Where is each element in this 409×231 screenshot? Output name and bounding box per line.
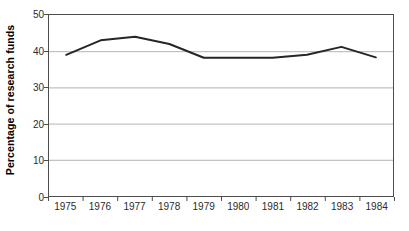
x-axis-tick-labels: 1975197619771978197919801981198219831984	[48, 201, 394, 221]
series-polyline	[66, 37, 376, 58]
y-axis-title-text: Percentage of research funds	[4, 25, 16, 175]
y-axis-tick-mark	[44, 51, 48, 52]
y-axis-tick-mark	[44, 87, 48, 88]
x-tick-label: 1975	[54, 201, 76, 212]
y-axis-tick-mark	[44, 160, 48, 161]
x-tick-label: 1980	[227, 201, 249, 212]
y-axis-title: Percentage of research funds	[0, 0, 20, 200]
y-axis-tick-mark	[44, 124, 48, 125]
plot-area	[48, 14, 394, 197]
x-tick-label: 1982	[296, 201, 318, 212]
y-axis-tick-labels: 01020304050	[20, 0, 44, 231]
data-series-line	[49, 15, 393, 196]
x-tick-label: 1976	[89, 201, 111, 212]
x-tick-label: 1978	[158, 201, 180, 212]
line-chart-figure: Percentage of research funds 01020304050…	[0, 0, 409, 231]
y-axis-tick-mark	[44, 14, 48, 15]
x-tick-label: 1977	[123, 201, 145, 212]
x-tick-label: 1979	[193, 201, 215, 212]
x-tick-label: 1983	[331, 201, 353, 212]
y-tick-label: 50	[20, 9, 44, 20]
y-tick-label: 20	[20, 118, 44, 129]
y-tick-label: 40	[20, 45, 44, 56]
y-tick-label: 30	[20, 82, 44, 93]
y-tick-label: 10	[20, 155, 44, 166]
y-tick-label: 0	[20, 192, 44, 203]
x-tick-label: 1984	[366, 201, 388, 212]
y-axis-tick-mark	[44, 197, 48, 198]
x-tick-label: 1981	[262, 201, 284, 212]
